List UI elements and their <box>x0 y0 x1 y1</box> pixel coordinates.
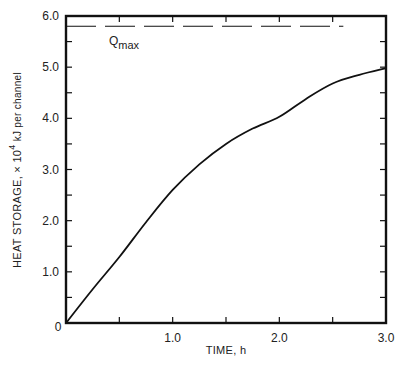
heat-storage-curve <box>66 68 386 323</box>
y-axis-title: HEAT STORAGE, × 104 kJ per channel <box>7 72 23 268</box>
y-tick-label: 1.0 <box>42 265 59 279</box>
x-tick-label: 3.0 <box>378 331 395 345</box>
y-tick-label: 5.0 <box>42 60 59 74</box>
axis-ticks <box>66 16 386 323</box>
y-tick-label: 4.0 <box>42 111 59 125</box>
x-tick-label: 2.0 <box>271 331 288 345</box>
y-tick-label: 3.0 <box>42 163 59 177</box>
y-tick-label: 2.0 <box>42 214 59 228</box>
plot-frame <box>66 16 386 323</box>
y-tick-labels: 1.02.03.04.05.06.0 <box>42 9 59 279</box>
qmax-label: Qmax <box>109 34 140 51</box>
y-tick-label: 6.0 <box>42 9 59 23</box>
x-tick-label: 1.0 <box>164 331 181 345</box>
x-axis-title: TIME, h <box>206 344 247 356</box>
heat-storage-chart: 01.02.03.0 1.02.03.04.05.06.0 Qmax TIME,… <box>0 0 407 371</box>
x-tick-label: 0 <box>55 320 62 334</box>
